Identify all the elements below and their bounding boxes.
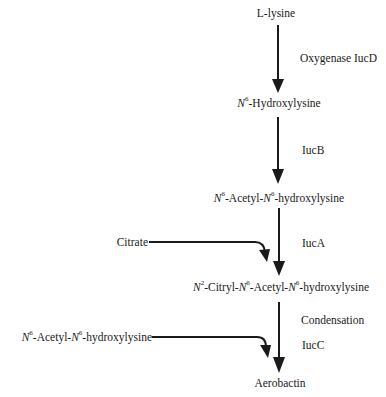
compound-n2-citryl-n6-acetyl-n6-hydroxylysine: N2-Citryl-N6-Acetyl-N6-hydroxylysine	[193, 280, 369, 294]
n-locant: N	[22, 331, 30, 343]
n-locant: N	[193, 281, 201, 293]
compound-n6-hydroxylysine: N6-Hydroxylysine	[237, 96, 320, 110]
name-part: -hydroxylysine	[299, 281, 369, 293]
name-part: -Acetyl-	[225, 192, 263, 204]
locant-superscript: 6	[246, 279, 250, 287]
n-locant: N	[237, 97, 245, 109]
enzyme-label-oxygenase-iucd: Oxygenase IucD	[300, 51, 377, 65]
name-part: -Acetyl-	[33, 331, 71, 343]
enzyme-label-iucb: IucB	[302, 143, 324, 157]
enzyme-label-condensation: Condensation	[301, 313, 364, 327]
locant-superscript: 6	[29, 329, 33, 337]
arrow-step4	[273, 302, 285, 373]
stereo-prefix: L	[257, 7, 264, 19]
arrow-acetylhydroxylysine-input	[152, 337, 271, 358]
arrow-step2	[272, 117, 284, 184]
locant-superscript: 6	[222, 190, 226, 198]
compound-name: -lysine	[264, 7, 295, 19]
input-citrate: Citrate	[117, 235, 148, 249]
enzyme-label-iuca: IucA	[302, 236, 325, 250]
n-locant: N	[214, 192, 222, 204]
compound-l-lysine: L-lysine	[257, 6, 295, 20]
compound-aerobactin: Aerobactin	[254, 376, 305, 390]
locant-superscript: 6	[79, 329, 83, 337]
locant-superscript: 6	[296, 279, 300, 287]
compound-name: -Hydroxylysine	[248, 97, 320, 109]
name-part: -Acetyl-	[250, 281, 288, 293]
compound-n6-acetyl-n6-hydroxylysine: N6-Acetyl-N6-hydroxylysine	[214, 191, 344, 205]
name-part: -hydroxylysine	[82, 331, 152, 343]
arrow-citrate-input	[149, 242, 270, 262]
pathway-diagram: L-lysine N6-Hydroxylysine N6-Acetyl-N6-h…	[0, 0, 386, 397]
arrow-step3	[273, 208, 285, 276]
name-part: -hydroxylysine	[275, 192, 345, 204]
input-n6-acetyl-n6-hydroxylysine: N6-Acetyl-N6-hydroxylysine	[22, 330, 152, 344]
arrow-step1	[272, 25, 284, 93]
enzyme-label-iucc: IucC	[302, 338, 324, 352]
locant-superscript: 2	[201, 279, 205, 287]
locant-superscript: 6	[271, 190, 275, 198]
name-part: -Citryl-	[204, 281, 239, 293]
locant-superscript: 6	[245, 95, 249, 103]
n-locant: N	[288, 281, 296, 293]
